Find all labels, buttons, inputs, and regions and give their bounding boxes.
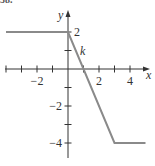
x-tick-label: 2 xyxy=(96,74,102,88)
graph-of-k: xy−2242−2−4k xyxy=(0,0,155,166)
x-tick-label: 4 xyxy=(127,74,133,88)
y-axis-arrow-icon xyxy=(66,10,71,17)
y-tick-label: −2 xyxy=(49,99,62,113)
tick-labels: xy−2242−2−4k xyxy=(31,8,152,150)
function-label: k xyxy=(80,44,86,58)
x-axis-label: x xyxy=(145,68,152,82)
y-axis-label: y xyxy=(57,8,64,22)
x-tick-label: −2 xyxy=(31,74,44,88)
y-tick-label: −4 xyxy=(49,136,62,150)
curve-k xyxy=(6,32,146,143)
function-curve xyxy=(6,32,146,143)
y-tick-label: 2 xyxy=(74,25,80,39)
